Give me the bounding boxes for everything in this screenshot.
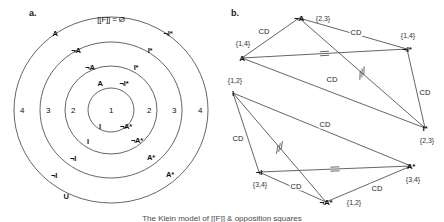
venn-region-label: A* (147, 153, 155, 162)
venn-region-label: ¬I* (120, 79, 129, 88)
edge-label-cd: CD (419, 88, 432, 97)
figure-caption: The Klein model of [[F]] & opposition sq… (0, 214, 444, 222)
venn-region-label: A (52, 29, 57, 38)
venn-region-label: ¬I (51, 171, 57, 180)
opposition-node-set-A: {1,4} (236, 40, 250, 47)
opposition-node-notAs: ¬A* (320, 198, 333, 207)
opposition-node-notA: ¬A (294, 14, 304, 23)
venn-region-label: [[F]] = Ø (97, 15, 124, 24)
venn-region-number: 1 (109, 106, 113, 115)
venn-region-label: I* (148, 46, 153, 55)
edge-label-cd: CD (232, 134, 245, 143)
opposition-edge-I-notI (233, 93, 259, 172)
opposition-edge-I-Astar (233, 93, 411, 166)
opposition-edge-A-notIs (242, 49, 407, 58)
venn-region-label: A* (166, 170, 174, 179)
venn-region-label: U (63, 192, 68, 201)
opposition-node-set-notAs: {1,2} (347, 199, 361, 206)
venn-region-label: ¬A* (131, 136, 143, 145)
opposition-edge-notAs-Astar (326, 166, 411, 202)
venn-region-number: 2 (71, 106, 75, 115)
edge-label-cd: CD (290, 182, 303, 191)
venn-region-number: 2 (147, 106, 151, 115)
venn-region-number: 3 (46, 106, 50, 115)
venn-region-label: ¬I (70, 154, 76, 163)
edge-label-cd: CD (319, 120, 332, 129)
venn-region-number: 4 (198, 106, 202, 115)
edge-congruence-tick (276, 145, 278, 154)
opposition-node-set-I: {1,2} (228, 77, 242, 84)
opposition-node-set-notIs: {1,4} (401, 32, 415, 39)
opposition-edge-A-notA (242, 18, 299, 58)
opposition-node-notIs: ¬I* (402, 45, 411, 54)
opposition-node-I: I (232, 89, 234, 98)
opposition-node-set-notA: {2,3} (316, 15, 330, 22)
venn-region-label: ¬A (71, 46, 80, 55)
opposition-node-set-Istar: {2,3} (420, 137, 434, 144)
venn-region-label: ¬A (85, 63, 94, 72)
opposition-node-set-Astar: {3,4} (406, 176, 420, 183)
venn-region-number: 4 (20, 106, 24, 115)
venn-region-label: I* (134, 63, 139, 72)
venn-region-label: I (99, 122, 101, 131)
opposition-node-Istar: I* (423, 124, 428, 133)
opposition-node-set-notI: {3,4} (253, 181, 267, 188)
venn-region-label: ¬I* (164, 29, 173, 38)
edge-label-cd: CD (258, 27, 271, 36)
opposition-node-A: A (239, 54, 245, 63)
edge-label-cd: CD (371, 184, 384, 193)
venn-region-number: 3 (172, 106, 176, 115)
edge-label-cd: CD (326, 75, 339, 84)
venn-region-label: I (87, 137, 89, 146)
venn-region-label: A (97, 79, 102, 88)
figure-container: a. b. [[F]] = ØA¬I*¬AI*¬AI*A¬I*4321234I¬… (0, 0, 444, 222)
venn-diagram: [[F]] = ØA¬I*¬AI*¬AI*A¬I*4321234I¬A*I¬A*… (0, 0, 222, 222)
edge-congruence-tick (279, 143, 281, 152)
edge-label-cd: CD (350, 28, 363, 37)
venn-region-label: ¬A* (120, 122, 132, 131)
opposition-node-notI: ¬I (256, 168, 263, 177)
edge-congruence-tick (281, 141, 283, 150)
opposition-edge-A-Istar (242, 58, 425, 128)
opposition-node-Astar: A* (407, 162, 416, 171)
opposition-diagram: CDCDCDCDCDCDCDCDA{1,4}¬A{2,3}¬I*{1,4}I*{… (222, 0, 444, 222)
